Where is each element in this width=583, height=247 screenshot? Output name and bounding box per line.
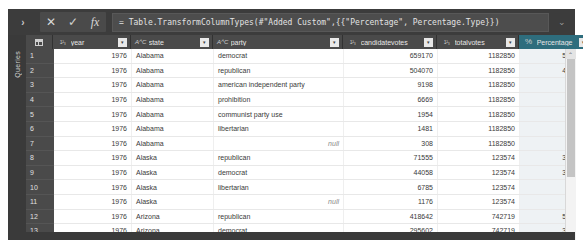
row-number[interactable]: 8 [26,151,54,166]
column-header-year[interactable]: 1²₃year▾ [53,35,131,49]
row-number[interactable]: 6 [26,122,54,137]
select-all-corner[interactable] [26,35,53,49]
cell-percentage[interactable]: 56.37 % [520,210,565,224]
column-type-abc-icon[interactable]: AᴬC [217,39,229,45]
cell-candidatevotes[interactable]: 1481 [344,122,438,136]
row-number[interactable]: 2 [26,64,54,79]
column-header-candidatevotes[interactable]: 1²₃candidatevotes▾ [343,35,437,49]
cell-year[interactable]: 1976 [54,78,132,92]
cell-totalvotes[interactable]: 123574 [438,166,520,180]
column-filter-dropdown-icon[interactable]: ▾ [200,38,209,47]
column-type-pct-icon[interactable]: % [523,38,535,46]
cell-percentage[interactable]: 42.61 % [520,64,565,78]
cell-party[interactable]: null [214,195,344,209]
cell-year[interactable]: 1976 [54,107,132,121]
cell-party[interactable]: republican [214,64,344,78]
cell-candidatevotes[interactable]: 1954 [344,107,438,121]
column-type-num-icon[interactable]: 1²₃ [57,40,69,45]
table-row[interactable]: 1976Alabamademocrat659170118285055.73 % [54,49,565,64]
column-filter-dropdown-icon[interactable]: ▾ [579,38,583,47]
column-header-state[interactable]: AᴬCstate▾ [131,35,213,49]
cell-party[interactable]: republican [214,210,344,224]
scrollbar-track[interactable] [566,59,576,240]
column-filter-dropdown-icon[interactable]: ▾ [330,38,339,47]
column-filter-dropdown-icon[interactable]: ▾ [506,38,515,47]
cell-percentage[interactable]: 0.13 % [520,122,565,136]
cell-totalvotes[interactable]: 1182850 [438,93,520,107]
cell-percentage[interactable]: 37.90 % [520,151,565,165]
cell-state[interactable]: Arizona [132,210,214,224]
cell-state[interactable]: Alabama [132,78,214,92]
table-row[interactable]: 1976Alabamacommunist party use1954118285… [54,107,565,122]
cell-totalvotes[interactable]: 123574 [438,195,520,209]
cell-year[interactable]: 1976 [54,137,132,151]
table-row[interactable]: 1976Alaskalibertarian67851235745.49 % [54,180,565,195]
cell-state[interactable]: Alaska [132,151,214,165]
cell-party[interactable]: democrat [214,49,344,63]
cancel-icon[interactable]: ✕ [40,12,62,32]
cell-percentage[interactable]: 0.78 % [520,78,565,92]
cell-state[interactable]: Alabama [132,49,214,63]
row-number[interactable]: 7 [26,137,54,152]
cell-candidatevotes[interactable]: 504070 [344,64,438,78]
cell-candidatevotes[interactable]: 1176 [344,195,438,209]
table-row[interactable]: 1976Alaskarepublican7155512357437.90 % [54,151,565,166]
scrollbar-thumb[interactable] [567,59,575,177]
cell-party[interactable]: communist party use [214,107,344,121]
cell-year[interactable]: 1976 [54,195,132,209]
cell-year[interactable]: 1976 [54,93,132,107]
cell-totalvotes[interactable]: 123574 [438,180,520,194]
cell-year[interactable]: 1976 [54,49,132,63]
cell-candidatevotes[interactable]: 418642 [344,210,438,224]
row-number[interactable]: 4 [26,93,54,108]
cell-percentage[interactable]: 0.56 % [520,93,565,107]
cell-percentage[interactable]: 0.95 % [520,195,565,209]
cell-candidatevotes[interactable]: 71555 [344,151,438,165]
cell-candidatevotes[interactable]: 9198 [344,78,438,92]
cell-year[interactable]: 1976 [54,210,132,224]
cell-party[interactable]: prohibition [214,93,344,107]
cell-party[interactable]: american independent party [214,78,344,92]
scroll-up-icon[interactable]: ⌃ [566,49,576,59]
cell-year[interactable]: 1976 [54,180,132,194]
cell-year[interactable]: 1976 [54,151,132,165]
cell-state[interactable]: Alaska [132,195,214,209]
chevron-down-icon[interactable]: ⌄ [553,12,571,32]
cell-year[interactable]: 1976 [54,166,132,180]
cell-state[interactable]: Alabama [132,107,214,121]
cell-percentage[interactable]: 35.65 % [520,166,565,180]
cell-year[interactable]: 1976 [54,64,132,78]
expand-queries-pane-icon[interactable]: › [12,11,34,33]
row-number[interactable]: 3 [26,78,54,93]
column-type-num-icon[interactable]: 1²₃ [441,40,453,45]
cell-candidatevotes[interactable]: 6669 [344,93,438,107]
table-row[interactable]: 1976Arizonarepublican41864274271956.37 % [54,210,565,225]
cell-candidatevotes[interactable]: 6785 [344,180,438,194]
table-row[interactable]: 1976Alaskademocrat4405812357435.65 % [54,166,565,181]
cell-totalvotes[interactable]: 1182850 [438,137,520,151]
cell-candidatevotes[interactable]: 659170 [344,49,438,63]
formula-input[interactable]: = Table.TransformColumnTypes(#"Added Cus… [112,13,549,32]
queries-pane[interactable]: Queries [8,35,26,240]
fx-icon[interactable]: fx [84,12,106,32]
vertical-scrollbar[interactable]: ⌃ [565,49,575,240]
cell-state[interactable]: Alabama [132,137,214,151]
cell-percentage[interactable]: 0.03 % [520,137,565,151]
table-row[interactable]: 1976Alabamaamerican independent party919… [54,78,565,93]
cell-percentage[interactable]: 5.49 % [520,180,565,194]
cell-candidatevotes[interactable]: 308 [344,137,438,151]
column-header-percentage[interactable]: %Percentage▾ [519,35,583,49]
row-number[interactable]: 12 [26,210,54,225]
table-row[interactable]: 1976Alabamalibertarian148111828500.13 % [54,122,565,137]
row-number[interactable]: 9 [26,166,54,181]
column-header-totalvotes[interactable]: 1²₃totalvotes▾ [437,35,519,49]
cell-party[interactable]: democrat [214,166,344,180]
cell-totalvotes[interactable]: 1182850 [438,78,520,92]
cell-totalvotes[interactable]: 1182850 [438,122,520,136]
row-number[interactable]: 11 [26,195,54,210]
row-number[interactable]: 1 [26,49,54,64]
cell-totalvotes[interactable]: 1182850 [438,49,520,63]
table-row[interactable]: 1976Alabamanull30811828500.03 % [54,137,565,152]
cell-candidatevotes[interactable]: 44058 [344,166,438,180]
cell-state[interactable]: Alaska [132,166,214,180]
